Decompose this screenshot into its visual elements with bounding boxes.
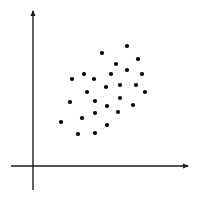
scatter-point bbox=[70, 77, 74, 81]
axes bbox=[11, 11, 188, 190]
scatter-point bbox=[93, 131, 97, 135]
scatter-point bbox=[118, 83, 122, 87]
scatter-point bbox=[68, 100, 72, 104]
scatter-point bbox=[82, 72, 86, 76]
scatter-point bbox=[109, 72, 113, 76]
scatter-point bbox=[92, 77, 96, 81]
scatter-chart bbox=[0, 0, 199, 198]
scatter-point bbox=[105, 104, 109, 108]
scatter-point bbox=[136, 57, 140, 61]
scatter-point bbox=[76, 132, 80, 136]
scatter-point bbox=[105, 123, 109, 127]
scatter-point bbox=[104, 85, 108, 89]
scatter-point bbox=[114, 62, 118, 66]
scatter-point bbox=[134, 83, 138, 87]
scatter-point bbox=[125, 44, 129, 48]
scatter-point bbox=[85, 90, 89, 94]
scatter-point bbox=[93, 99, 97, 103]
scatter-point bbox=[140, 72, 144, 76]
scatter-point bbox=[59, 120, 63, 124]
scatter-point bbox=[125, 68, 129, 72]
scatter-point bbox=[118, 96, 122, 100]
scatter-point bbox=[143, 90, 147, 94]
scatter-point bbox=[80, 116, 84, 120]
scatter-point bbox=[93, 111, 97, 115]
scatter-point bbox=[100, 51, 104, 55]
scatter-point bbox=[131, 103, 135, 107]
data-points bbox=[59, 44, 147, 136]
scatter-point bbox=[116, 110, 120, 114]
